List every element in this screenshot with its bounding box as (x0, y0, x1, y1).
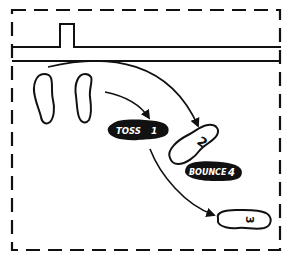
step-3-number: 3 (243, 216, 256, 224)
footprint-step-3-icon: 3 (218, 210, 271, 229)
bounce-label: BOUNCE (189, 168, 227, 177)
diagram-canvas: TOSS 1 2 BOUNCE 4 3 (0, 0, 295, 260)
toss-marker: TOSS 1 (108, 119, 169, 140)
footprint-start-left-icon (34, 74, 54, 123)
footprint-step-2-icon: 2 (169, 125, 218, 164)
arrow-start-to-step-2-icon (48, 61, 198, 126)
toss-label: TOSS (116, 126, 141, 136)
bounce-marker: BOUNCE 4 (185, 161, 242, 181)
footprint-start-right-icon (75, 74, 91, 122)
arrow-start-to-toss-icon (105, 92, 149, 118)
net-line (12, 24, 281, 61)
toss-number: 1 (151, 126, 157, 136)
bounce-number: 4 (227, 167, 235, 178)
